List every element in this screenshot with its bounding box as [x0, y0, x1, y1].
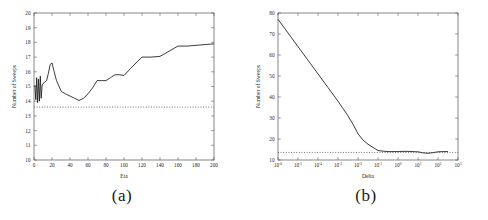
- y-axis-tick-label: 16: [25, 69, 31, 75]
- panel-b-caption: (b): [244, 186, 488, 206]
- x-axis-tick-label: 80: [103, 162, 109, 168]
- y-axis-tick-label: 13: [25, 113, 31, 119]
- data-series-line: [278, 19, 448, 153]
- x-axis-tick-label: 103: [455, 162, 462, 168]
- x-axis-title: Delta: [362, 173, 375, 179]
- y-axis-tick-label: 60: [269, 52, 275, 58]
- y-axis-tick-label: 40: [269, 94, 275, 100]
- x-axis-tick-label: 40: [67, 162, 73, 168]
- x-axis-tick-label: 10-1: [374, 162, 382, 168]
- x-axis-tick-label: 100: [395, 162, 402, 168]
- x-axis-tick-label: 10-5: [294, 162, 302, 168]
- plot-frame: [278, 13, 458, 160]
- y-axis-title: Number of Sweeps: [255, 65, 261, 108]
- y-axis-tick-label: 11: [26, 142, 31, 148]
- x-axis-tick-label: 20: [49, 162, 55, 168]
- y-axis-tick-label: 50: [269, 73, 275, 79]
- x-axis-title: Eta: [120, 173, 128, 179]
- x-axis-tick-label: 120: [138, 162, 146, 168]
- x-axis-tick-label: 140: [156, 162, 164, 168]
- x-axis-tick-label: 10-3: [334, 162, 342, 168]
- panel-b-plot: 10-610-510-410-310-210-11001011021031020…: [244, 0, 488, 186]
- plot-frame: [34, 13, 214, 160]
- y-axis-tick-label: 20: [25, 10, 31, 16]
- y-axis-tick-label: 20: [269, 136, 275, 142]
- y-axis-title: Number of Sweeps: [11, 65, 17, 108]
- x-axis-tick-label: 102: [435, 162, 442, 168]
- x-axis-tick-label: 10-2: [354, 162, 362, 168]
- y-axis-tick-label: 10: [25, 157, 31, 163]
- y-axis-tick-label: 30: [269, 115, 275, 121]
- figure-container: 0204060801001201401601802001011121314151…: [0, 0, 488, 220]
- y-axis-tick-label: 12: [25, 128, 31, 134]
- panel-a-caption: (a): [0, 186, 244, 206]
- x-axis-tick-label: 100: [120, 162, 128, 168]
- y-axis-tick-label: 17: [25, 54, 31, 60]
- x-axis-tick-label: 10-4: [314, 162, 322, 168]
- panel-b: 10-610-510-410-310-210-11001011021031020…: [244, 0, 488, 220]
- x-axis-tick-label: 0: [33, 162, 36, 168]
- y-axis-tick-label: 18: [25, 39, 31, 45]
- y-axis-tick-label: 80: [269, 10, 275, 16]
- x-axis-tick-label: 180: [192, 162, 200, 168]
- x-axis-tick-label: 60: [85, 162, 91, 168]
- panel-a-plot: 0204060801001201401601802001011121314151…: [0, 0, 244, 186]
- y-axis-tick-label: 15: [25, 83, 31, 89]
- x-axis-tick-label: 200: [210, 162, 218, 168]
- x-axis-tick-label: 10-6: [274, 162, 282, 168]
- y-axis-tick-label: 10: [269, 157, 275, 163]
- x-axis-tick-label: 160: [174, 162, 182, 168]
- y-axis-tick-label: 14: [25, 98, 31, 104]
- y-axis-tick-label: 19: [25, 25, 31, 31]
- y-axis-tick-label: 70: [269, 31, 275, 37]
- panel-a: 0204060801001201401601802001011121314151…: [0, 0, 244, 220]
- data-series-line: [35, 44, 214, 103]
- x-axis-tick-label: 101: [415, 162, 422, 168]
